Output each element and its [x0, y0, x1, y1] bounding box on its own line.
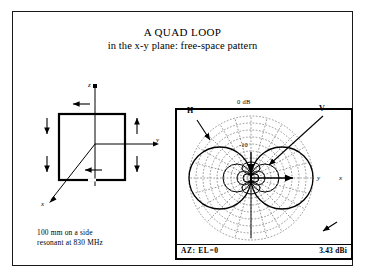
- title-line-secondary: in the x-y plane: free-space pattern: [13, 39, 352, 52]
- page-frame: A QUAD LOOP in the x-y plane: free-space…: [12, 11, 353, 266]
- antenna-geometry-diagram: z y x: [29, 82, 164, 207]
- caption-resonance: resonant at 830 MHz: [37, 238, 103, 248]
- axis-y-label: y: [155, 136, 160, 144]
- polar-footer-bar: AZ: EL=0 3.43 dBi: [177, 244, 351, 258]
- footer-cut-label: AZ: EL=0: [181, 246, 219, 255]
- footer-gain-value: 3.43 dBi: [319, 246, 347, 255]
- pattern-label-v: V: [319, 104, 325, 113]
- ring-label-minus10db: -10: [239, 141, 248, 148]
- leader-h: [197, 120, 210, 140]
- polar-pattern-svg: y x: [177, 110, 351, 258]
- polar-axis-y-label: y: [316, 174, 321, 182]
- antenna-caption: 100 mm on a side resonant at 830 MHz: [37, 228, 103, 248]
- polar-axis-x-label: x: [338, 174, 343, 182]
- ring-label-0db: 0 dB: [237, 98, 251, 105]
- axis-x-label: x: [40, 200, 45, 207]
- title-line-primary: A QUAD LOOP: [13, 26, 352, 39]
- leader-outer-ring: [323, 222, 337, 231]
- axis-x: [49, 144, 95, 203]
- caption-size: 100 mm on a side: [37, 228, 103, 238]
- leader-v: [269, 116, 323, 165]
- axis-y: [95, 141, 159, 146]
- polar-pattern-panel: y x H V 0 dB -10 AZ: EL=0 3.43 dBi: [175, 108, 353, 260]
- pattern-label-h: H: [187, 106, 193, 115]
- axis-z-label: z: [87, 82, 91, 89]
- page-title: A QUAD LOOP in the x-y plane: free-space…: [13, 26, 352, 52]
- axis-z: [93, 84, 97, 186]
- axis-z-tip: [93, 84, 97, 88]
- antenna-geometry-svg: z y x: [29, 82, 164, 207]
